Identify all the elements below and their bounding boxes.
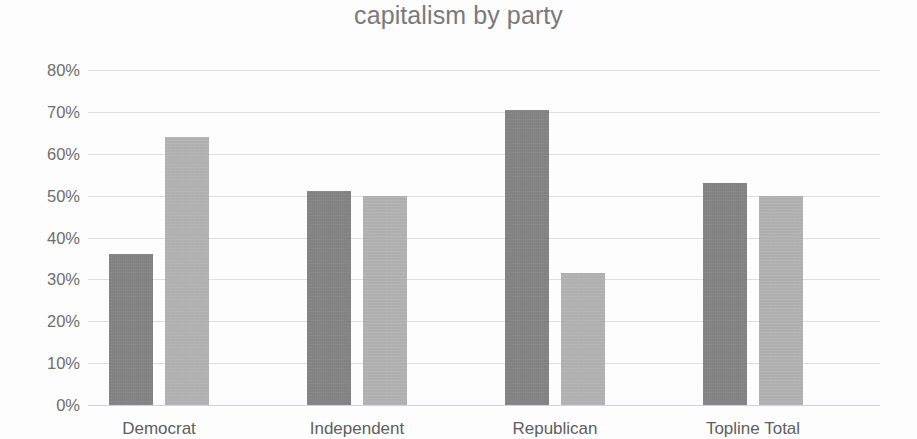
gridline	[88, 405, 880, 406]
y-axis-tick-label: 50%	[10, 188, 80, 205]
gridline	[88, 70, 880, 71]
bar-chart: capitalism by party 80%70%60%50%40%30%20…	[0, 0, 917, 439]
bar	[703, 183, 747, 405]
y-axis-tick-label: 10%	[10, 355, 80, 372]
bar	[759, 196, 803, 405]
x-axis-tick-label: Independent	[257, 418, 457, 439]
gridline	[88, 112, 880, 113]
y-axis-tick-label: 70%	[10, 104, 80, 121]
x-axis-tick-label: Democrat	[88, 418, 259, 439]
bar	[307, 191, 351, 405]
y-axis-tick-label: 60%	[10, 146, 80, 163]
y-axis-tick-label: 30%	[10, 271, 80, 288]
y-axis-tick-label: 0%	[10, 397, 80, 414]
y-axis-tick-label: 80%	[10, 62, 80, 79]
bar	[561, 273, 605, 405]
x-axis-tick-label: Topline Total	[653, 418, 853, 439]
bar	[505, 110, 549, 405]
bar	[109, 254, 153, 405]
chart-title: capitalism by party	[0, 1, 917, 30]
y-axis-tick-label: 20%	[10, 313, 80, 330]
x-axis-tick-label: Republican	[455, 418, 655, 439]
bar	[363, 196, 407, 405]
y-axis-tick-label: 40%	[10, 230, 80, 247]
chart-title-container: capitalism by party	[0, 0, 917, 36]
bar	[165, 137, 209, 405]
y-axis: 80%70%60%50%40%30%20%10%0%	[8, 70, 80, 405]
x-axis: DemocratIndependentRepublicanTopline Tot…	[88, 418, 880, 439]
plot-area	[88, 70, 880, 405]
